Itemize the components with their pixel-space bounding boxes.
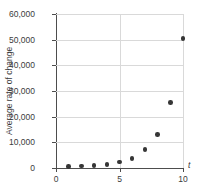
plot-area: 010,00020,00030,00040,00050,00060,000 — [56, 14, 183, 168]
data-point — [130, 156, 135, 161]
data-point — [92, 163, 97, 168]
scatter-chart-figure: Average rate of change t 010,00020,00030… — [0, 0, 200, 193]
y-axis-tick — [52, 40, 56, 41]
x-axis-title: t — [188, 161, 190, 170]
y-axis-tick — [52, 14, 56, 15]
data-point — [181, 36, 186, 41]
data-point — [66, 164, 71, 169]
gridline-vertical — [120, 14, 121, 168]
x-axis-tick-label: 5 — [110, 175, 130, 184]
data-point — [168, 100, 173, 105]
y-axis-tick-label: 60,000 — [0, 10, 35, 19]
x-axis-tick-label: 0 — [46, 175, 66, 184]
y-axis-tick-label: 50,000 — [0, 36, 35, 45]
data-point — [105, 162, 110, 167]
data-point — [143, 147, 148, 152]
y-axis-tick-label: 0 — [0, 164, 35, 173]
data-point — [155, 132, 160, 137]
data-point — [79, 164, 84, 169]
x-axis-tick — [120, 168, 121, 172]
x-axis-tick — [183, 168, 184, 172]
y-axis-tick-label: 40,000 — [0, 61, 35, 70]
y-axis-tick-label: 10,000 — [0, 138, 35, 147]
y-axis-tick — [52, 142, 56, 143]
y-axis-tick-label: 20,000 — [0, 113, 35, 122]
x-axis-tick-label: 10 — [173, 175, 193, 184]
y-axis-tick-label: 30,000 — [0, 87, 35, 96]
y-axis-tick — [52, 65, 56, 66]
y-axis-tick — [52, 91, 56, 92]
x-axis-tick — [56, 168, 57, 172]
y-axis-tick — [52, 117, 56, 118]
data-point — [117, 160, 122, 165]
